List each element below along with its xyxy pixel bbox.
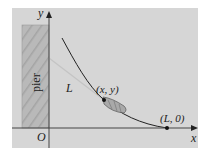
y-axis-label: y <box>37 6 44 20</box>
x-axis-label: x <box>190 131 197 145</box>
pier-label: pier <box>29 73 43 92</box>
boat-point-label: (x, y) <box>96 83 119 96</box>
endpoint <box>165 126 169 130</box>
boat-point <box>102 98 106 102</box>
origin-label: O <box>37 130 46 144</box>
rope-length-label: L <box>65 81 73 95</box>
endpoint-label: (L, 0) <box>160 112 185 125</box>
tractrix-diagram: pier L (x, y) y x O (L, 0) <box>0 0 211 158</box>
